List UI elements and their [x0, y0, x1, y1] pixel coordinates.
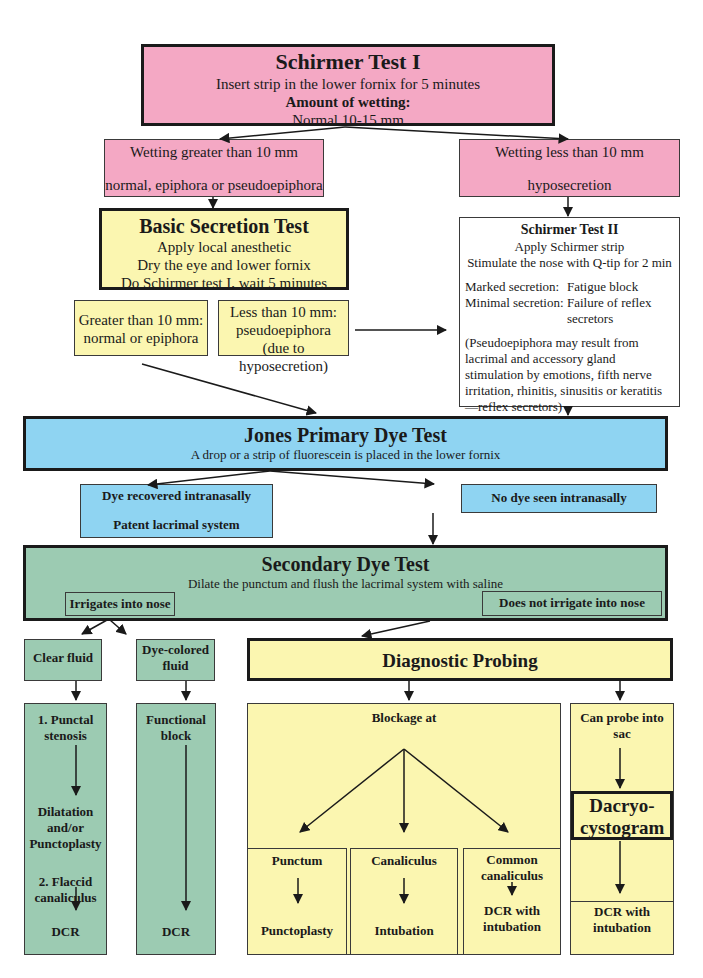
wetting-greater-label: Wetting greater than 10 mm — [105, 143, 323, 161]
dye-colored-column: Functional block DCR — [136, 703, 216, 955]
basic-less-result: pseudoepiphora — [219, 321, 348, 339]
diagnostic-probing-title: Diagnostic Probing — [250, 649, 670, 673]
not-irrigates-label: Does not irrigate into nose — [483, 595, 661, 611]
minimal-secretion-row: Minimal secretion: Failure of reflex sec… — [465, 295, 674, 327]
schirmer-test-1-title: Schirmer Test I — [144, 49, 552, 75]
functional-block-label: Functional block — [137, 712, 215, 744]
pseudoepiphora-note: (Pseudoepiphora may result from lacrimal… — [465, 335, 674, 415]
canaliculus-cell: Canaliculus Intubation — [350, 848, 458, 955]
clear-dcr-label: DCR — [25, 924, 106, 940]
wetting-less-label: Wetting less than 10 mm — [460, 143, 679, 161]
dye-dcr-label: DCR — [137, 924, 215, 940]
basic-step-2: Dry the eye and lower fornix — [102, 256, 346, 274]
minimal-secretion-label: Minimal secretion: — [465, 295, 567, 327]
basic-less-box: Less than 10 mm: pseudoepiphora (due to … — [218, 300, 349, 356]
dye-recovered-label: Dye recovered intranasally — [81, 488, 272, 504]
schirmer-test-1-box: Schirmer Test I Insert strip in the lowe… — [141, 44, 555, 126]
minimal-secretion-value: Failure of reflex secretors — [567, 295, 662, 327]
basic-greater-result: normal or epiphora — [75, 329, 207, 347]
basic-secretion-test-box: Basic Secretion Test Apply local anesthe… — [99, 208, 349, 290]
basic-step-1: Apply local anesthetic — [102, 238, 346, 256]
wetting-less-box: Wetting less than 10 mm hyposecretion — [459, 139, 680, 197]
basic-less-label: Less than 10 mm: — [219, 303, 348, 321]
sac-divider — [571, 901, 673, 902]
schirmer-test-2-step-2: Stimulate the nose with Q-tip for 2 min — [465, 255, 674, 271]
dacryocystogram-label: Dacryo-cystogram — [574, 795, 670, 839]
basic-less-note: (due to hyposecretion) — [219, 339, 348, 375]
sac-dcr-label: DCR with intubation — [581, 904, 663, 936]
clear-fluid-label: Clear fluid — [25, 650, 101, 666]
dye-recovered-box: Dye recovered intranasally Patent lacrim… — [80, 484, 273, 538]
clear-fluid-box: Clear fluid — [24, 639, 102, 681]
dacryocystogram-box: Dacryo-cystogram — [571, 791, 673, 840]
dilatation-punctoplasty-label: Dilatation and/or Punctoplasty — [25, 804, 106, 852]
wetting-greater-result: normal, epiphora or pseudoepiphora — [105, 176, 323, 194]
marked-secretion-row: Marked secretion: Fatigue block — [465, 279, 674, 295]
wetting-less-result: hyposecretion — [460, 176, 679, 194]
no-dye-box: No dye seen intranasally — [461, 484, 657, 513]
schirmer-test-2-title: Schirmer Test II — [465, 221, 674, 239]
common-canaliculus-cell: Common canaliculus DCR with intubation — [463, 848, 561, 955]
irrigates-label: Irrigates into nose — [66, 596, 174, 612]
dye-colored-fluid-label: Dye-colored fluid — [137, 642, 214, 674]
punctal-stenosis-label: 1. Punctal stenosis — [25, 712, 106, 744]
punctum-cell: Punctum Punctoplasty — [247, 848, 347, 955]
secondary-test-subtitle: Dilate the punctum and flush the lacrima… — [26, 576, 665, 592]
marked-secretion-label: Marked secretion: — [465, 279, 567, 295]
schirmer-test-1-instruction: Insert strip in the lower fornix for 5 m… — [144, 75, 552, 93]
dye-colored-fluid-box: Dye-colored fluid — [136, 639, 215, 681]
jones-primary-dye-test-box: Jones Primary Dye Test A drop or a strip… — [23, 416, 668, 471]
punctoplasty-label: Punctoplasty — [248, 923, 346, 939]
schirmer-test-2-step-1: Apply Schirmer strip — [465, 239, 674, 255]
common-canaliculus-label: Common canaliculus — [464, 852, 560, 884]
basic-greater-label: Greater than 10 mm: — [75, 311, 207, 329]
irrigates-into-nose-box: Irrigates into nose — [65, 592, 175, 616]
blockage-at-label: Blockage at — [364, 710, 444, 726]
basic-secretion-test-title: Basic Secretion Test — [102, 214, 346, 238]
flaccid-canaliculus-label: 2. Flaccid canaliculus — [25, 874, 106, 906]
common-dcr-label: DCR with intubation — [472, 903, 552, 935]
clear-fluid-column: 1. Punctal stenosis Dilatation and/or Pu… — [24, 703, 107, 955]
can-probe-label: Can probe into sac — [571, 710, 673, 742]
punctum-label: Punctum — [248, 853, 346, 869]
no-dye-label: No dye seen intranasally — [462, 490, 656, 506]
basic-greater-box: Greater than 10 mm: normal or epiphora — [74, 300, 208, 356]
intubation-label: Intubation — [351, 923, 457, 939]
amount-of-wetting-label: Amount of wetting: — [144, 93, 552, 111]
basic-step-3: Do Schirmer test I, wait 5 minutes — [102, 274, 346, 292]
patent-lacrimal-label: Patent lacrimal system — [81, 517, 272, 533]
diagnostic-probing-box: Diagnostic Probing — [247, 638, 673, 681]
secondary-test-title: Secondary Dye Test — [26, 552, 665, 576]
normal-range: Normal 10-15 mm — [144, 111, 552, 129]
does-not-irrigate-box: Does not irrigate into nose — [482, 591, 662, 616]
jones-test-title: Jones Primary Dye Test — [26, 423, 665, 447]
canaliculus-label: Canaliculus — [351, 853, 457, 869]
jones-test-subtitle: A drop or a strip of fluorescein is plac… — [26, 447, 665, 463]
marked-secretion-value: Fatigue block — [567, 279, 638, 295]
schirmer-test-2-box: Schirmer Test II Apply Schirmer strip St… — [459, 217, 680, 407]
wetting-greater-box: Wetting greater than 10 mm normal, epiph… — [104, 139, 324, 197]
